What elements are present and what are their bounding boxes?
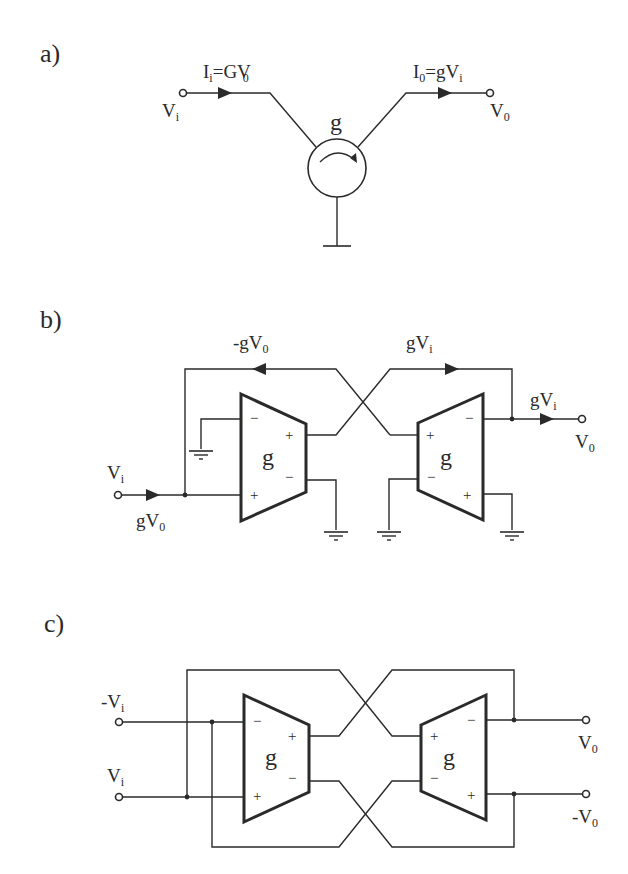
output-current-label: I0=gVi — [413, 61, 463, 85]
left-ota-minus-in: − — [253, 713, 261, 729]
input-neg-terminal[interactable] — [116, 719, 123, 726]
feedback-right-arrow — [445, 363, 459, 375]
input-current-arrow — [218, 87, 232, 99]
output-current-arrow — [540, 413, 554, 425]
right-ota-minus-ground-wire — [389, 479, 418, 530]
right-ota-minus-in: − — [427, 469, 435, 485]
input-voltage-label: Vi — [107, 462, 125, 486]
left-ota-out-ground-wire — [306, 480, 336, 530]
ground-icon — [189, 451, 213, 459]
rotation-arrow-icon — [320, 153, 355, 162]
panel-a: a) Ii=GV0 I0=gVi Vi V0 g — [40, 39, 510, 246]
panel-c: c) -Vi Vi g − + + − g + − − + — [44, 609, 598, 847]
panel-b: b) -gV0 gVi Vi gV0 g − + + − g − + + — [40, 305, 595, 540]
right-ota-plus-out: + — [467, 787, 475, 803]
input-current-arrow — [146, 489, 160, 501]
ground-icon — [377, 532, 401, 540]
junction-dot — [510, 417, 515, 422]
top-loop-left — [187, 670, 421, 797]
panel-a-label: a) — [40, 39, 60, 68]
gyrator-label: g — [330, 109, 342, 135]
input-pos-terminal[interactable] — [116, 794, 123, 801]
right-ota-plus-out: + — [463, 487, 471, 503]
junction-dot — [183, 493, 188, 498]
input-current-label: gV0 — [136, 510, 165, 534]
right-ota-label: g — [443, 744, 455, 770]
junction-dot — [512, 718, 517, 723]
panel-b-label: b) — [40, 305, 62, 334]
output-terminal[interactable] — [579, 416, 586, 423]
right-ota-minus-in: − — [430, 770, 438, 786]
left-ota-label: g — [262, 444, 274, 470]
ground-icon — [500, 532, 524, 540]
output-current-label: gVi — [530, 389, 557, 413]
left-ota-plus-out: + — [288, 728, 296, 744]
left-ota-plus-in: + — [250, 487, 258, 503]
rotation-arrowhead-icon — [350, 153, 357, 163]
feedback-left-label: -gV0 — [233, 332, 269, 356]
top-loop-right — [309, 670, 514, 736]
right-ota-plus-ground-wire — [483, 494, 512, 530]
input-pos-label: Vi — [107, 765, 125, 789]
output-neg-label: -V0 — [572, 806, 598, 830]
left-ota-label: g — [265, 744, 277, 770]
gyrator-symbol — [308, 139, 366, 197]
junction-dot — [512, 792, 517, 797]
left-ota-minus-in: − — [250, 410, 258, 426]
output-current-arrow — [438, 87, 452, 99]
feedback-right-label: gVi — [406, 332, 433, 356]
left-ota-minus-ground-wire — [201, 419, 241, 449]
bottom-loop-right — [309, 781, 514, 847]
output-wire — [358, 93, 487, 147]
right-ota-plus-in: + — [426, 427, 434, 443]
input-terminal[interactable] — [115, 492, 122, 499]
input-neg-label: -Vi — [101, 691, 125, 715]
right-ota-minus-out: − — [465, 410, 473, 426]
output-voltage-label: V0 — [575, 431, 595, 455]
output-terminal[interactable] — [487, 90, 494, 97]
left-ota-plus-in: + — [253, 788, 261, 804]
feedback-left-arrow — [252, 363, 266, 375]
output-pos-terminal[interactable] — [583, 717, 590, 724]
output-voltage-label: V0 — [490, 100, 510, 124]
input-voltage-label: Vi — [162, 100, 180, 124]
left-ota-minus-out: − — [285, 469, 293, 485]
gyrator-figure: a) Ii=GV0 I0=gVi Vi V0 g b) -gV0 gVi — [0, 0, 628, 874]
input-terminal[interactable] — [180, 90, 187, 97]
feedback-wire-right — [306, 369, 512, 435]
output-neg-terminal[interactable] — [583, 791, 590, 798]
left-ota-plus-out: + — [285, 427, 293, 443]
input-wire — [186, 93, 316, 147]
ground-icon — [324, 532, 348, 540]
input-current-label: Ii=GV0 — [203, 61, 251, 85]
right-ota-label: g — [440, 444, 452, 470]
right-ota-plus-in: + — [430, 728, 438, 744]
left-ota-minus-out: − — [288, 770, 296, 786]
panel-c-label: c) — [44, 609, 64, 638]
output-pos-label: V0 — [578, 732, 598, 756]
right-ota-minus-out: − — [467, 712, 475, 728]
